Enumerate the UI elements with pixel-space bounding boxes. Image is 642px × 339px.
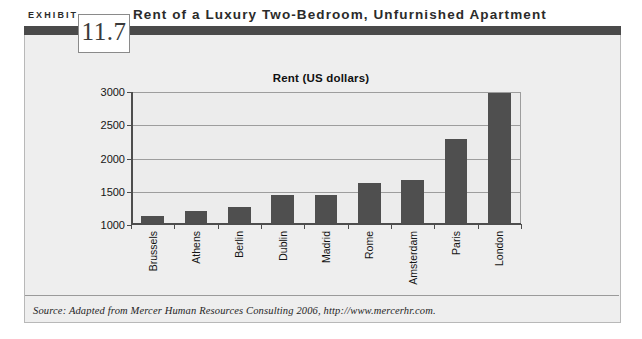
x-tick-label: Rome	[363, 231, 375, 259]
x-tick-label: Brussels	[147, 231, 159, 271]
x-label-slot: Athens	[174, 231, 217, 264]
x-label-slot: Berlin	[218, 231, 261, 258]
x-axis-line	[131, 223, 521, 225]
gridline	[131, 92, 521, 93]
x-tick-mark	[391, 224, 392, 229]
x-tick-label: Madrid	[320, 231, 332, 263]
y-tick-mark	[127, 192, 132, 193]
x-tick-mark	[434, 224, 435, 229]
y-tick-label: 2000	[101, 153, 125, 165]
chart-title: Rent (US dollars)	[0, 72, 642, 84]
source-note: Source: Adapted from Mercer Human Resour…	[33, 305, 436, 316]
source-divider	[25, 295, 619, 296]
exhibit-number-box: 11.7	[78, 14, 130, 53]
x-tick-mark	[131, 224, 132, 229]
x-label-slot: Brussels	[131, 231, 174, 271]
x-label-slot: Madrid	[304, 231, 347, 263]
chart-plot-area: 10001500200025003000 BrusselsAthensBerli…	[131, 92, 521, 225]
x-label-slot: Paris	[434, 231, 477, 255]
bar	[401, 180, 424, 225]
x-tick-mark	[218, 224, 219, 229]
x-tick-label: Athens	[190, 231, 202, 264]
x-tick-mark	[348, 224, 349, 229]
x-tick-label: Paris	[450, 231, 462, 255]
y-tick-mark	[127, 159, 132, 160]
x-tick-mark	[174, 224, 175, 229]
y-tick-mark	[127, 92, 132, 93]
bar	[315, 195, 338, 225]
y-tick-label: 1000	[101, 219, 125, 231]
x-label-slot: Rome	[348, 231, 391, 259]
bar	[488, 93, 511, 225]
x-tick-label: Amsterdam	[407, 231, 419, 285]
x-label-slot: Amsterdam	[391, 231, 434, 285]
x-tick-mark	[304, 224, 305, 229]
gridline	[131, 125, 521, 126]
x-tick-label: Dublin	[277, 231, 289, 261]
y-tick-mark	[127, 125, 132, 126]
y-tick-label: 2500	[101, 119, 125, 131]
exhibit-figure: EXHIBIT Rent of a Luxury Two-Bedroom, Un…	[0, 0, 642, 339]
exhibit-label: EXHIBIT	[28, 10, 78, 20]
exhibit-number: 11.7	[79, 18, 129, 46]
x-label-slot: Dublin	[261, 231, 304, 261]
x-tick-label: London	[493, 231, 505, 266]
bar	[358, 183, 381, 225]
y-tick-label: 3000	[101, 86, 125, 98]
x-label-slot: London	[478, 231, 521, 266]
x-tick-mark	[261, 224, 262, 229]
x-tick-mark	[478, 224, 479, 229]
y-tick-label: 1500	[101, 186, 125, 198]
exhibit-title: Rent of a Luxury Two-Bedroom, Unfurnishe…	[133, 7, 547, 22]
x-tick-label: Berlin	[233, 231, 245, 258]
bar	[271, 195, 294, 225]
bar	[445, 139, 468, 225]
x-tick-mark	[521, 224, 522, 229]
